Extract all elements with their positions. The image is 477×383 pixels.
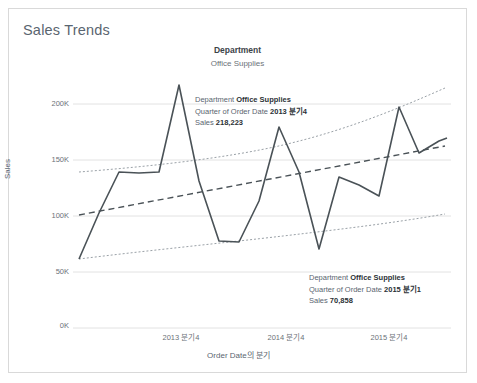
annot-1-value-1: 2013 분기4 [270,107,307,116]
y-tick-3: 150K [51,155,69,164]
y-tick-4: 200K [51,99,69,108]
annot-2-value-1: 2015 분기1 [384,285,421,294]
legend-value: Office Supplies [9,59,466,68]
annot-1-key-0: Department [195,95,234,104]
y-tick-1: 50K [56,267,69,276]
x-tick-2: 2015 분기4 [371,331,408,342]
x-tick-0: 2013 분기4 [163,331,200,342]
page-title: Sales Trends [23,22,110,38]
annot-1-value-0: Office Supplies [236,95,291,104]
x-axis: 2013 분기4 2014 분기4 2015 분기4 [73,331,451,347]
legend-caption: Department [9,45,466,55]
y-tick-0: 0K [60,321,69,330]
annot-2-key-1: Quarter of Order Date [309,285,382,294]
y-tick-2: 100K [51,211,69,220]
annot-2-key-2: Sales [309,296,328,305]
annot-2-value-2: 70,858 [330,296,353,305]
tooltip-annotation-2: Department Office Supplies Quarter of Or… [309,272,421,307]
visualization-container: Sales Trends Department Office Supplies … [8,8,467,373]
y-axis-title: Sales [3,159,12,179]
annot-1-value-2: 218,223 [216,118,243,127]
annot-1-key-2: Sales [195,118,214,127]
annot-1-key-1: Quarter of Order Date [195,107,268,116]
annot-2-value-0: Office Supplies [350,273,405,282]
trend-line [79,146,445,215]
tooltip-annotation-1: Department Office Supplies Quarter of Or… [195,94,307,129]
y-axis: 0K 50K 100K 150K 200K [27,71,69,329]
x-axis-title: Order Date의 분기 [9,349,468,360]
x-tick-1: 2014 분기4 [268,331,305,342]
annot-2-key-0: Department [309,273,348,282]
confidence-band-lower [79,214,445,259]
